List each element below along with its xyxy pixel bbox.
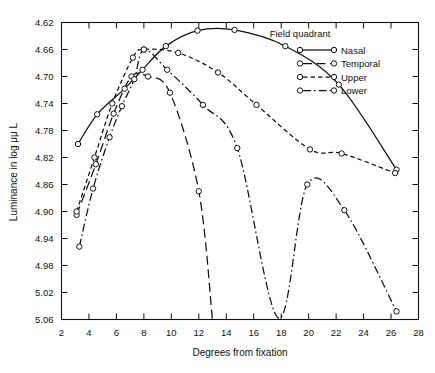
x-tick-label: 8 [141, 327, 146, 338]
x-tick-label: 24 [358, 327, 369, 338]
data-point-marker [145, 74, 150, 79]
data-point-marker [232, 27, 237, 32]
luminance-line-chart: Luminance in log μμ L Degrees from fixat… [0, 0, 435, 373]
data-point-marker [93, 162, 98, 167]
x-tick-label: 6 [114, 327, 119, 338]
y-tick-label: 4.94 [35, 233, 54, 244]
y-tick-label: 4.78 [35, 125, 54, 136]
data-point-marker [77, 244, 82, 249]
legend-title: Field quadrant [270, 28, 331, 39]
data-point-marker [196, 189, 201, 194]
data-point-marker [165, 67, 170, 72]
data-point-marker [254, 102, 259, 107]
marker-layer [74, 27, 399, 314]
data-point-marker [90, 186, 95, 191]
legend-label-temporal: Temporal [341, 58, 380, 69]
data-point-marker [107, 135, 112, 140]
data-point-marker [342, 207, 347, 212]
x-tick-label: 28 [413, 327, 424, 338]
y-tick-label: 4.66 [35, 44, 54, 55]
x-tick-label: 20 [303, 327, 314, 338]
y-tick-label: 4.90 [35, 206, 54, 217]
x-tick-labels: 246810121416182022242628 [59, 327, 424, 338]
data-point-marker [132, 77, 137, 82]
x-tick-label: 26 [386, 327, 397, 338]
data-point-marker [75, 141, 80, 146]
data-point-marker [394, 309, 399, 314]
legend-marker [331, 88, 336, 93]
data-point-marker [305, 182, 310, 187]
legend-label-lower: Lower [341, 85, 367, 96]
y-tick-labels: 4.624.664.704.744.784.824.864.904.944.98… [35, 17, 54, 325]
data-point-marker [195, 28, 200, 33]
x-tick-label: 14 [221, 327, 232, 338]
x-tick-label: 16 [248, 327, 259, 338]
legend-marker [331, 74, 336, 79]
legend-marker [331, 47, 336, 52]
data-point-marker [130, 55, 135, 60]
data-point-marker [200, 102, 205, 107]
x-axis-title: Degrees from fixation [192, 347, 287, 358]
y-tick-label: 4.74 [35, 98, 54, 109]
data-point-marker [392, 170, 397, 175]
legend-label-upper: Upper [341, 72, 367, 83]
data-point-marker [141, 47, 146, 52]
series-line-temporal [77, 73, 213, 321]
legend-marker [297, 47, 302, 52]
legend-label-nasal: Nasal [341, 45, 365, 56]
y-tick-label: 4.82 [35, 152, 54, 163]
data-point-marker [111, 111, 116, 116]
data-point-marker [339, 151, 344, 156]
x-tick-label: 22 [331, 327, 342, 338]
data-point-marker [235, 145, 240, 150]
x-tick-label: 4 [86, 327, 91, 338]
legend-marker [297, 74, 302, 79]
y-tick-label: 5.06 [35, 314, 54, 325]
data-point-marker [92, 155, 97, 160]
x-tick-label: 18 [276, 327, 287, 338]
data-point-marker [95, 112, 100, 117]
y-tick-label: 4.86 [35, 179, 54, 190]
x-tick-label: 10 [166, 327, 177, 338]
data-point-marker [176, 50, 181, 55]
data-point-marker [215, 70, 220, 75]
y-tick-label: 4.98 [35, 260, 54, 271]
legend-marker [297, 88, 302, 93]
data-point-marker [110, 101, 115, 106]
x-tick-label: 12 [194, 327, 205, 338]
legend-marker [297, 61, 302, 66]
y-tick-label: 5.02 [35, 287, 54, 298]
data-point-marker [122, 86, 127, 91]
legend-marker [331, 61, 336, 66]
data-point-marker [283, 43, 288, 48]
data-point-marker [119, 104, 124, 109]
x-tick-label: 2 [59, 327, 64, 338]
y-axis-title: Luminance in log μμ L [8, 122, 19, 221]
data-point-marker [167, 90, 172, 95]
legend: Field quadrant NasalTemporalUpperLower [270, 28, 380, 96]
y-tick-label: 4.62 [35, 17, 54, 28]
data-point-marker [307, 147, 312, 152]
data-point-marker [74, 209, 79, 214]
chart-figure: Luminance in log μμ L Degrees from fixat… [0, 0, 435, 373]
data-point-marker [163, 43, 168, 48]
data-point-marker [140, 67, 145, 72]
y-tick-label: 4.70 [35, 71, 54, 82]
